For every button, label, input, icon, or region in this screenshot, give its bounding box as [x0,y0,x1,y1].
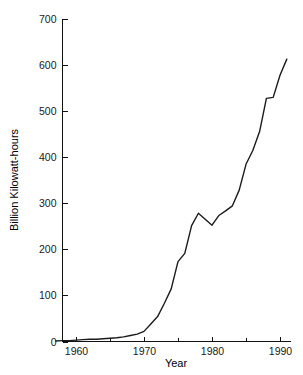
chart-figure: 0100200300400500600700 1960197019801990 … [0,0,303,375]
y-tick-label-200: 200 [39,243,57,255]
x-tick-label-1980: 1980 [201,345,225,357]
x-tick-label-1960: 1960 [65,345,89,357]
chart-background [0,0,303,375]
y-tick-label-500: 500 [39,105,57,117]
y-tick-label-100: 100 [39,289,57,301]
y-tick-label-700: 700 [39,13,57,25]
y-tick-label-400: 400 [39,151,57,163]
y-tick-label-300: 300 [39,197,57,209]
x-tick-label-1990: 1990 [269,345,293,357]
y-tick-label-600: 600 [39,59,57,71]
x-axis-title: Year [165,357,188,369]
y-tick-label-0: 0 [51,336,57,348]
y-axis-title: Billion Kilowatt-hours [8,128,20,231]
x-tick-label-1970: 1970 [133,345,157,357]
line-chart: 0100200300400500600700 1960197019801990 … [0,0,303,375]
